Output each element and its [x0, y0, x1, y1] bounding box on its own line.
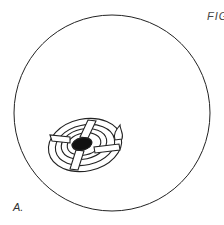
dish-outline	[14, 15, 210, 211]
petri-dish-diagram	[0, 0, 224, 225]
coiled-specimen	[43, 112, 126, 178]
panel-label: A.	[13, 201, 23, 213]
